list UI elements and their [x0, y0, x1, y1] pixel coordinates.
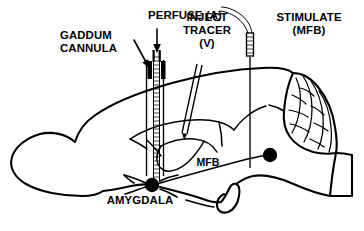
amygdala-nucleus	[145, 178, 159, 192]
label-inject-tracer-line1: INJECT	[186, 11, 227, 23]
label-stimulate-line1: STIMULATE	[276, 11, 342, 23]
diagram-canvas: PERFUSE (A) GADDUM CANNULA INJECT TRACER…	[0, 0, 364, 231]
cannula-collar-right	[161, 61, 166, 79]
cannula-hub-cap-2	[159, 50, 161, 62]
label-mfb: MFB	[196, 156, 219, 168]
label-gaddum-line1: GADDUM	[60, 29, 112, 41]
label-stimulate-line2: (MFB)	[293, 24, 326, 36]
label-inject-tracer-line2: TRACER	[183, 24, 231, 36]
label-inject-tracer-line3: (V)	[199, 37, 215, 49]
brain-diagram-figure: PERFUSE (A) GADDUM CANNULA INJECT TRACER…	[0, 0, 364, 231]
label-amygdala: AMYGDALA	[107, 194, 174, 206]
mfb-target-nucleus	[263, 148, 277, 162]
label-gaddum-line2: CANNULA	[60, 42, 117, 54]
cannula-hub-cap	[153, 50, 155, 62]
